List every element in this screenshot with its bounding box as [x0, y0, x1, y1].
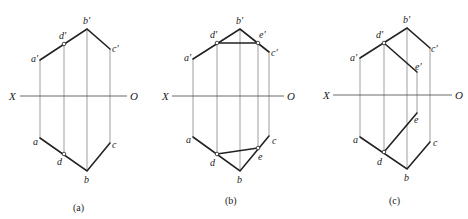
- label-a-prime: a': [31, 53, 39, 64]
- axis-o-label: O: [455, 89, 463, 101]
- label-d-prime: d': [210, 29, 218, 40]
- axis-o-label: O: [287, 90, 295, 102]
- edge-de-top: [217, 148, 258, 154]
- label-c-prime: c': [271, 47, 278, 58]
- label-a-prime: a': [350, 52, 358, 63]
- point-e: [256, 146, 260, 150]
- projection-diagram: X O a' d' b' c' a d b c (a) X O a: [0, 0, 468, 219]
- edge-abc-top: [360, 137, 430, 169]
- axis-o-label: O: [130, 90, 138, 102]
- label-a-prime: a': [184, 52, 192, 63]
- point-d: [62, 152, 66, 156]
- label-b-prime: b': [83, 15, 91, 26]
- label-d-prime: d': [376, 29, 384, 40]
- label-b: b: [237, 174, 242, 185]
- label-b: b: [404, 172, 409, 183]
- point-d-prime: [215, 41, 219, 45]
- label-d: d: [377, 156, 383, 167]
- point-e-prime: [256, 41, 260, 45]
- axis-x-label: X: [161, 90, 170, 102]
- point-d-prime: [62, 42, 66, 46]
- label-e-prime: e': [415, 61, 422, 72]
- edge-de-front: [384, 43, 417, 72]
- edge-abc-front: [40, 29, 110, 60]
- label-e-prime: e': [259, 29, 266, 40]
- label-a: a: [353, 134, 358, 145]
- label-c: c: [272, 135, 277, 146]
- label-e: e: [258, 151, 263, 162]
- panel-a: X O a' d' b' c' a d b c (a): [8, 15, 138, 214]
- label-a: a: [33, 136, 38, 147]
- caption-c: (c): [389, 195, 400, 207]
- point-d: [215, 152, 219, 156]
- label-a: a: [186, 134, 191, 145]
- label-d: d: [57, 156, 63, 167]
- point-d-prime: [382, 41, 386, 45]
- edge-de-top: [384, 113, 417, 152]
- label-e: e: [414, 114, 419, 125]
- point-d: [382, 150, 386, 154]
- label-b: b: [84, 174, 89, 185]
- caption-b: (b): [225, 195, 237, 207]
- caption-a: (a): [73, 202, 84, 214]
- axis-x-label: X: [322, 89, 331, 101]
- label-b-prime: b': [403, 14, 411, 25]
- label-c-prime: c': [431, 43, 438, 54]
- label-c: c: [112, 139, 117, 150]
- edge-abc-top: [40, 138, 110, 171]
- axis-x-label: X: [8, 90, 17, 102]
- label-d-prime: d': [59, 30, 67, 41]
- label-b-prime: b': [236, 15, 244, 26]
- panel-b: X O a' d' b' e' c' a d b e c (b): [161, 15, 295, 207]
- label-d: d: [210, 157, 216, 168]
- label-c: c: [433, 137, 438, 148]
- panel-c: X O a' d' b' e' c' a d b e c (c): [322, 14, 463, 207]
- label-c-prime: c': [112, 43, 119, 54]
